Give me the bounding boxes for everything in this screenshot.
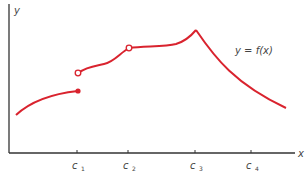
svg-text:c: c	[72, 160, 78, 171]
y-axis-label: y	[13, 5, 21, 16]
svg-text:c: c	[190, 160, 196, 171]
graph-figure: y x y = f(x) c 1 c 2 c 3 c 4	[0, 0, 306, 176]
svg-text:3: 3	[199, 165, 203, 172]
filled-endpoint-c1	[75, 88, 80, 93]
function-label: y = f(x)	[234, 45, 273, 56]
svg-text:c: c	[123, 160, 129, 171]
tick-label-c1: c 1	[72, 160, 85, 172]
tick-label-c3: c 3	[190, 160, 203, 172]
svg-text:1: 1	[81, 165, 85, 172]
curve-segment-middle	[78, 30, 196, 73]
svg-text:2: 2	[132, 165, 136, 172]
svg-text:4: 4	[255, 165, 259, 172]
x-axis-label: x	[297, 148, 304, 159]
tick-label-c4: c 4	[246, 160, 259, 172]
curve-segment-left	[16, 91, 78, 115]
open-circle-c2	[126, 45, 132, 51]
tick-label-c2: c 2	[123, 160, 136, 172]
curve-segment-right	[196, 30, 286, 108]
svg-text:c: c	[246, 160, 252, 171]
open-circle-c1	[75, 70, 81, 76]
